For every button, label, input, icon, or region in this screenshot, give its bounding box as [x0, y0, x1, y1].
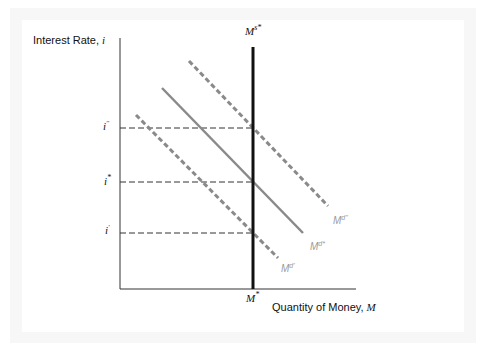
x-axis-label: Quantity of Money, M — [272, 301, 376, 313]
rate-label-i-prime: i' — [105, 223, 110, 236]
money-demand-high-label: Md'' — [333, 214, 348, 226]
money-supply-label: Ms* — [245, 23, 261, 37]
rate-label-i-double-prime: i'' — [103, 119, 109, 132]
equilibrium-quantity-label: M* — [246, 290, 259, 304]
money-market-plot — [0, 0, 487, 363]
money-demand-equilibrium-label: Md* — [310, 240, 325, 252]
y-axis-label: Interest Rate, i — [33, 34, 105, 46]
money-demand-high-curve — [189, 61, 328, 206]
rate-label-i-star: i* — [104, 173, 111, 187]
money-demand-low-label: Md' — [281, 262, 295, 274]
